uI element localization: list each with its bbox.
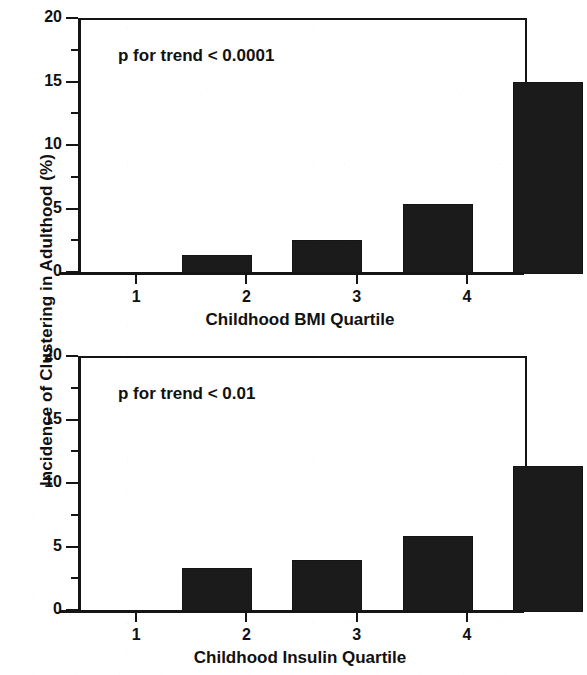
x-tick-insulin-1 (135, 613, 137, 622)
y-tick-label-insulin-10: 10 (2, 474, 62, 490)
x-tick-label-insulin-3: 3 (327, 626, 387, 644)
y-tick-bmi-15 (66, 81, 78, 83)
bar-insulin-q1 (182, 568, 252, 612)
x-axis-line-bmi (60, 272, 524, 275)
bar-bmi-q2 (292, 240, 362, 274)
x-tick-insulin-4 (466, 613, 468, 622)
y-tick-label-insulin-0: 0 (2, 601, 62, 617)
x-tick-label-bmi-4: 4 (437, 288, 497, 306)
y-tick-label-bmi-15: 15 (2, 73, 62, 89)
x-tick-bmi-2 (245, 275, 247, 284)
x-tick-label-insulin-1: 1 (106, 626, 166, 644)
y-minor-tick-insulin-12.5 (71, 450, 78, 452)
y-tick-bmi-10 (66, 144, 78, 146)
y-minor-tick-bmi-7.5 (71, 176, 78, 178)
x-tick-label-bmi-3: 3 (327, 288, 387, 306)
y-minor-tick-insulin-2.5 (71, 577, 78, 579)
p-trend-annotation-bmi: p for trend < 0.0001 (118, 46, 274, 66)
y-tick-label-insulin-15: 15 (2, 411, 62, 427)
x-tick-label-bmi-2: 2 (216, 288, 276, 306)
y-tick-bmi-5 (66, 208, 78, 210)
x-tick-insulin-3 (356, 613, 358, 622)
x-tick-bmi-3 (356, 275, 358, 284)
y-tick-label-bmi-10: 10 (2, 136, 62, 152)
y-tick-label-insulin-5: 5 (2, 538, 62, 554)
y-minor-tick-bmi-12.5 (71, 112, 78, 114)
x-axis-title-insulin: Childhood Insulin Quartile (78, 648, 522, 668)
bar-insulin-q3 (403, 536, 473, 612)
y-tick-insulin-5 (66, 546, 78, 548)
chart-panel-bmi: 05101520 p for trend < 0.0001 Childhood … (0, 0, 529, 338)
x-axis-title-bmi: Childhood BMI Quartile (78, 310, 522, 330)
y-minor-tick-insulin-17.5 (71, 387, 78, 389)
y-tick-label-bmi-5: 5 (2, 200, 62, 216)
x-tick-label-insulin-4: 4 (437, 626, 497, 644)
y-tick-label-insulin-20: 20 (2, 347, 62, 363)
x-axis-line-insulin (60, 610, 524, 613)
x-tick-bmi-1 (135, 275, 137, 284)
y-tick-insulin-20 (66, 355, 78, 357)
p-trend-annotation-insulin: p for trend < 0.01 (118, 384, 255, 404)
y-minor-tick-bmi-17.5 (71, 49, 78, 51)
y-tick-label-bmi-0: 0 (2, 263, 62, 279)
x-tick-label-insulin-2: 2 (216, 626, 276, 644)
y-minor-tick-bmi-2.5 (71, 239, 78, 241)
x-tick-insulin-2 (245, 613, 247, 622)
bar-bmi-q3 (403, 204, 473, 274)
chart-panel-insulin: 05101520 p for trend < 0.01 Childhood In… (0, 338, 529, 675)
y-tick-insulin-0 (66, 609, 78, 611)
bar-insulin-q2 (292, 560, 362, 612)
bar-insulin-q4 (513, 466, 583, 612)
x-tick-bmi-4 (466, 275, 468, 284)
y-tick-bmi-0 (66, 271, 78, 273)
y-tick-insulin-15 (66, 419, 78, 421)
y-tick-insulin-10 (66, 482, 78, 484)
bar-bmi-q4 (513, 82, 583, 274)
y-minor-tick-insulin-7.5 (71, 514, 78, 516)
y-tick-bmi-20 (66, 17, 78, 19)
y-tick-label-bmi-20: 20 (2, 9, 62, 25)
x-tick-label-bmi-1: 1 (106, 288, 166, 306)
